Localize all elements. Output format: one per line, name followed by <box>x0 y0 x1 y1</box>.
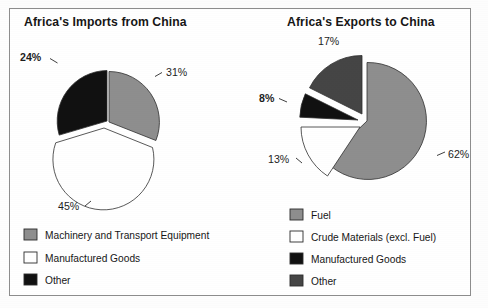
right-legend-swatch-other <box>290 275 303 286</box>
left-legend-swatch-machinery <box>24 229 37 240</box>
right-leader-fuel <box>437 152 445 156</box>
right-leader-manufactured <box>279 99 287 103</box>
right-label-fuel: 62% <box>448 148 470 160</box>
right-legend-swatch-fuel <box>290 209 303 220</box>
left-wedge-manufactured <box>53 128 154 210</box>
left-legend-swatch-other <box>24 274 37 285</box>
right-legend-swatch-manufactured <box>290 253 303 264</box>
right-legend-label-crude: Crude Materials (excl. Fuel) <box>311 232 436 243</box>
right-legend-label-fuel: Fuel <box>311 210 331 221</box>
left-wedge-other <box>57 71 107 136</box>
left-chart-title: Africa's Imports from China <box>24 15 187 29</box>
left-wedge-machinery <box>109 72 159 141</box>
right-legend: Fuel Crude Materials (excl. Fuel) Manufa… <box>290 209 436 287</box>
left-legend-swatch-manufactured <box>24 252 37 263</box>
left-legend-label-other: Other <box>45 275 71 286</box>
figure-canvas: Africa's Imports from China 31% 24% 45% … <box>0 0 488 308</box>
left-legend: Machinery and Transport Equipment Manufa… <box>24 229 209 286</box>
charts-svg: Africa's Imports from China 31% 24% 45% … <box>0 0 488 308</box>
right-legend-label-manufactured: Manufactured Goods <box>311 254 406 265</box>
right-legend-label-other: Other <box>311 276 337 287</box>
right-label-other: 17% <box>318 35 340 47</box>
left-legend-label-manufactured: Manufactured Goods <box>45 253 140 264</box>
right-chart-title: Africa's Exports to China <box>287 15 435 29</box>
left-label-other: 24% <box>20 51 42 63</box>
right-legend-swatch-crude <box>290 231 303 242</box>
right-label-crude: 13% <box>268 153 290 165</box>
right-pie-chart: Africa's Exports to China 17% 8% 13% 62% <box>259 15 470 287</box>
right-leader-crude <box>296 158 302 163</box>
left-label-manufactured: 45% <box>58 200 80 212</box>
left-label-machinery: 31% <box>166 66 188 78</box>
left-leader-machinery <box>155 73 162 77</box>
left-leader-other <box>50 59 58 64</box>
left-pie-chart: Africa's Imports from China 31% 24% 45% … <box>20 15 209 286</box>
left-legend-label-machinery: Machinery and Transport Equipment <box>45 230 209 241</box>
right-label-manufactured: 8% <box>259 92 275 104</box>
